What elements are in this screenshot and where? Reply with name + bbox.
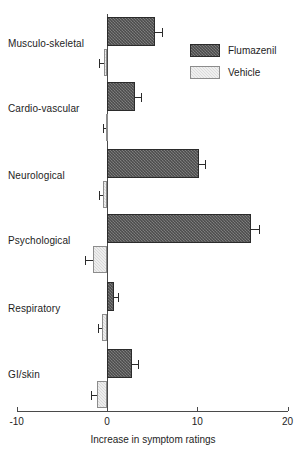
bar-flumazenil-0-errorbar bbox=[155, 32, 162, 33]
bar-flumazenil-3 bbox=[107, 214, 251, 243]
category-label-2: Neurological bbox=[8, 170, 65, 181]
x-tick-label-0: -10 bbox=[0, 416, 37, 427]
x-axis-line bbox=[17, 411, 288, 412]
category-label-5: GI/skin bbox=[8, 369, 40, 380]
bar-vehicle-0 bbox=[104, 49, 107, 76]
bar-chart: Musculo-skeletalCardio-vascularNeurologi… bbox=[0, 0, 306, 454]
category-label-4: Respiratory bbox=[8, 303, 60, 314]
category-label-1: Cardio-vascular bbox=[8, 103, 80, 114]
bar-vehicle-2 bbox=[103, 181, 107, 208]
x-tick-1 bbox=[107, 407, 108, 411]
x-tick-3 bbox=[288, 407, 289, 411]
bar-vehicle-0-errorbar-cap bbox=[99, 59, 100, 68]
bar-flumazenil-3-errorbar-cap bbox=[259, 225, 260, 234]
bar-vehicle-3-errorbar-cap bbox=[85, 256, 86, 265]
bar-vehicle-3 bbox=[93, 246, 107, 273]
bar-vehicle-1 bbox=[106, 114, 108, 141]
bar-flumazenil-4 bbox=[107, 282, 114, 311]
bar-flumazenil-3-errorbar bbox=[251, 229, 259, 230]
bar-vehicle-2-errorbar-cap bbox=[99, 191, 100, 200]
legend-swatch-flu-icon bbox=[190, 44, 220, 57]
bar-vehicle-5 bbox=[97, 381, 107, 408]
x-tick-2 bbox=[197, 407, 198, 411]
plot-area: Musculo-skeletalCardio-vascularNeurologi… bbox=[0, 0, 306, 454]
bar-vehicle-1-errorbar-cap bbox=[103, 124, 104, 133]
bar-flumazenil-1 bbox=[107, 82, 135, 111]
bar-flumazenil-4-errorbar-cap bbox=[118, 293, 119, 302]
legend-label-veh: Vehicle bbox=[228, 67, 260, 78]
bar-flumazenil-0-errorbar-cap bbox=[162, 28, 163, 37]
bar-flumazenil-2-errorbar-cap bbox=[205, 160, 206, 169]
bar-flumazenil-1-errorbar-cap bbox=[141, 93, 142, 102]
legend-swatch-veh-icon bbox=[190, 66, 220, 79]
bar-vehicle-5-errorbar-cap bbox=[91, 391, 92, 400]
x-tick-label-3: 20 bbox=[268, 416, 306, 427]
x-tick-label-2: 10 bbox=[177, 416, 217, 427]
legend-item-flu[interactable]: Flumazenil bbox=[190, 44, 276, 57]
bar-vehicle-4 bbox=[102, 314, 107, 341]
legend-item-veh[interactable]: Vehicle bbox=[190, 66, 260, 79]
bar-flumazenil-2 bbox=[107, 149, 199, 178]
bar-flumazenil-5 bbox=[107, 349, 132, 378]
legend: FlumazenilVehicle bbox=[190, 44, 300, 84]
bar-vehicle-4-errorbar-cap bbox=[98, 324, 99, 333]
bar-vehicle-3-errorbar bbox=[85, 260, 93, 261]
category-label-0: Musculo-skeletal bbox=[8, 38, 84, 49]
legend-label-flu: Flumazenil bbox=[228, 45, 276, 56]
bar-flumazenil-0 bbox=[107, 17, 155, 46]
category-label-3: Psychological bbox=[8, 235, 70, 246]
x-tick-label-1: 0 bbox=[87, 416, 127, 427]
x-tick-0 bbox=[17, 407, 18, 411]
x-axis-title: Increase in symptom ratings bbox=[0, 434, 306, 446]
bar-flumazenil-5-errorbar-cap bbox=[138, 360, 139, 369]
